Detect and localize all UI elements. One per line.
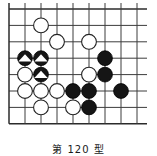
stone-disc — [82, 84, 97, 99]
go-board[interactable] — [0, 0, 157, 142]
stone-black[interactable] — [34, 51, 49, 66]
stone-white[interactable] — [18, 67, 33, 82]
stone-white[interactable] — [82, 67, 97, 82]
stone-disc — [50, 34, 65, 49]
stone-white[interactable] — [50, 84, 65, 99]
stone-black[interactable] — [66, 84, 81, 99]
stone-white[interactable] — [34, 84, 49, 99]
stone-disc — [82, 100, 97, 115]
go-board-canvas[interactable] — [0, 0, 157, 142]
stone-disc — [50, 84, 65, 99]
stone-white[interactable] — [18, 84, 33, 99]
stone-disc — [98, 51, 113, 66]
stone-disc — [98, 67, 113, 82]
stone-white[interactable] — [50, 34, 65, 49]
stone-disc — [18, 67, 33, 82]
figure-caption: 第 120 型 — [0, 144, 157, 156]
stone-white[interactable] — [34, 18, 49, 33]
stone-black[interactable] — [98, 51, 113, 66]
stone-disc — [34, 100, 49, 115]
stone-disc — [82, 34, 97, 49]
stone-disc — [34, 18, 49, 33]
stone-black[interactable] — [34, 67, 49, 82]
stone-disc — [66, 84, 81, 99]
stone-white[interactable] — [82, 34, 97, 49]
stone-black[interactable] — [114, 84, 129, 99]
stone-white[interactable] — [34, 100, 49, 115]
stone-disc — [114, 84, 129, 99]
stone-black[interactable] — [82, 84, 97, 99]
stone-disc — [66, 100, 81, 115]
stone-disc — [34, 84, 49, 99]
stone-black[interactable] — [82, 100, 97, 115]
stone-black[interactable] — [98, 67, 113, 82]
stone-disc — [82, 67, 97, 82]
stone-white[interactable] — [66, 100, 81, 115]
stone-disc — [18, 84, 33, 99]
stone-black[interactable] — [18, 51, 33, 66]
go-problem-figure: 第 120 型 — [0, 0, 157, 156]
